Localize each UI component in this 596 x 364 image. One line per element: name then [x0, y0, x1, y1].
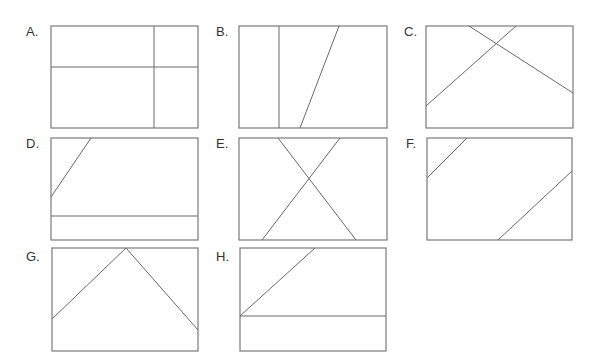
division-line	[262, 138, 340, 240]
panel-label: G.	[26, 249, 40, 264]
panels-group: A.B.C.D.E.F.G.H.	[26, 24, 573, 351]
division-line	[498, 171, 572, 240]
division-line	[240, 248, 315, 316]
panel-a: A.	[26, 24, 198, 128]
panel-b: B.	[216, 24, 387, 128]
panel-frame	[51, 138, 198, 240]
figure-canvas: A.B.C.D.E.F.G.H.	[0, 0, 596, 364]
panel-frame	[239, 26, 387, 128]
panel-label: A.	[26, 24, 38, 39]
panel-frame	[239, 138, 387, 240]
division-line	[300, 26, 339, 128]
panel-label: H.	[216, 249, 229, 264]
division-line	[278, 138, 356, 240]
panel-g: G.	[26, 248, 198, 351]
division-line	[51, 138, 91, 197]
panel-f: F.	[406, 136, 572, 240]
panel-label: B.	[216, 24, 228, 39]
division-line	[126, 248, 198, 330]
panel-h: H.	[216, 248, 386, 351]
panel-label: F.	[406, 136, 416, 151]
panel-label: E.	[216, 136, 228, 151]
panel-e: E.	[216, 136, 387, 240]
panel-frame	[240, 248, 386, 351]
panel-frame	[51, 26, 198, 128]
panel-label: C.	[404, 24, 417, 39]
division-line	[469, 26, 573, 93]
division-line	[426, 26, 516, 106]
panel-d: D.	[26, 136, 198, 240]
panel-frame	[427, 138, 572, 240]
panel-label: D.	[26, 136, 39, 151]
panel-c: C.	[404, 24, 573, 128]
division-line	[427, 138, 467, 178]
panel-frame	[52, 248, 198, 351]
division-line	[52, 248, 126, 319]
